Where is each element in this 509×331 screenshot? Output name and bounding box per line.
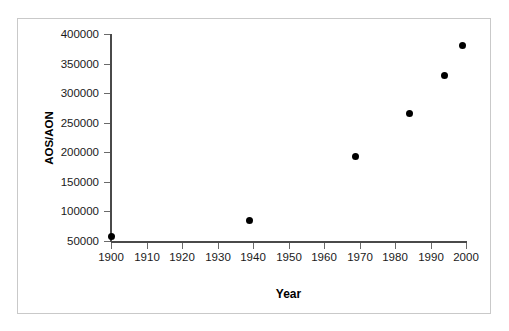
data-point xyxy=(459,42,466,49)
y-tick-label: 200000 xyxy=(18,146,99,158)
x-tick-label: 1950 xyxy=(269,251,309,263)
x-tick-mark xyxy=(289,243,290,249)
y-tick-mark xyxy=(104,93,110,94)
chart-frame: 5000010000015000020000025000030000035000… xyxy=(17,18,491,314)
x-tick-label: 1930 xyxy=(198,251,238,263)
x-tick-mark xyxy=(182,243,183,249)
x-tick-mark xyxy=(253,243,254,249)
x-tick-mark xyxy=(147,243,148,249)
data-point xyxy=(441,72,448,79)
y-axis-line xyxy=(110,34,112,242)
data-point xyxy=(406,110,413,117)
x-tick-label: 1910 xyxy=(127,251,167,263)
y-tick-mark xyxy=(104,123,110,124)
x-tick-label: 1980 xyxy=(375,251,415,263)
x-tick-label: 1990 xyxy=(411,251,451,263)
y-tick-label: 150000 xyxy=(18,176,99,188)
y-tick-mark xyxy=(104,211,110,212)
x-tick-mark xyxy=(395,243,396,249)
y-tick-label: 300000 xyxy=(18,87,99,99)
y-tick-label: 250000 xyxy=(18,117,99,129)
y-tick-mark xyxy=(104,241,110,242)
x-tick-mark xyxy=(360,243,361,249)
y-tick-label: 400000 xyxy=(18,28,99,40)
x-tick-mark xyxy=(218,243,219,249)
y-axis-title-text: AOS/AON xyxy=(43,111,55,165)
y-tick-label: 100000 xyxy=(18,205,99,217)
y-tick-mark xyxy=(104,34,110,35)
x-axis-title: Year xyxy=(111,287,466,301)
x-tick-label: 2000 xyxy=(446,251,486,263)
x-tick-mark xyxy=(466,243,467,249)
data-point xyxy=(108,233,115,240)
x-tick-label: 1940 xyxy=(233,251,273,263)
x-tick-label: 1960 xyxy=(304,251,344,263)
x-tick-mark xyxy=(431,243,432,249)
x-tick-mark xyxy=(324,243,325,249)
x-tick-mark xyxy=(111,243,112,249)
y-tick-label: 350000 xyxy=(18,58,99,70)
x-tick-label: 1970 xyxy=(340,251,380,263)
data-point xyxy=(246,217,253,224)
data-point xyxy=(352,153,359,160)
y-axis-title: AOS/AON xyxy=(40,90,58,186)
y-tick-mark xyxy=(104,152,110,153)
y-tick-mark xyxy=(104,64,110,65)
chart-figure: 5000010000015000020000025000030000035000… xyxy=(0,0,509,331)
y-tick-label: 50000 xyxy=(18,235,99,247)
y-tick-mark xyxy=(104,182,110,183)
x-tick-label: 1900 xyxy=(91,251,131,263)
x-tick-label: 1920 xyxy=(162,251,202,263)
